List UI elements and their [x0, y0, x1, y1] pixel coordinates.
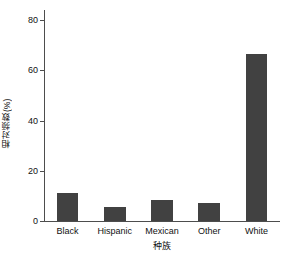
- x-tick-label: Hispanic: [98, 226, 133, 236]
- y-tick-mark: [40, 70, 44, 71]
- bar-chart-figure: 相对频数(%) 020406080 BlackHispanicMexicanOt…: [0, 0, 284, 280]
- y-tick-mark: [40, 121, 44, 122]
- y-tick-label: 40: [28, 116, 38, 126]
- y-tick-label: 20: [28, 166, 38, 176]
- y-axis-spine: [44, 10, 45, 222]
- y-tick-mark: [40, 221, 44, 222]
- y-axis-title: 相对频数(%): [0, 84, 14, 162]
- plot-area: 020406080 BlackHispanicMexicanOtherWhite: [44, 10, 280, 222]
- x-tick-label: White: [245, 226, 268, 236]
- bar: [198, 203, 220, 221]
- y-tick-label: 0: [33, 216, 38, 226]
- y-tick-mark: [40, 171, 44, 172]
- bar: [104, 207, 126, 221]
- y-tick-label: 80: [28, 15, 38, 25]
- bar: [57, 193, 79, 221]
- bar: [151, 200, 173, 221]
- y-tick-mark: [40, 20, 44, 21]
- y-tick-label: 60: [28, 65, 38, 75]
- x-tick-label: Mexican: [145, 226, 179, 236]
- bar: [246, 54, 268, 221]
- x-axis-spine: [44, 221, 280, 222]
- x-axis-title: 种族: [44, 239, 280, 252]
- x-tick-label: Black: [57, 226, 79, 236]
- x-tick-label: Other: [198, 226, 221, 236]
